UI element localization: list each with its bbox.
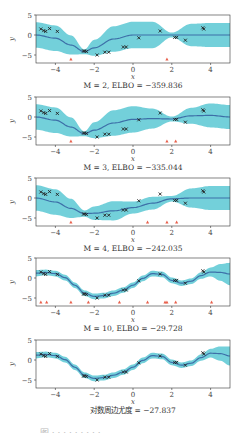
inducing-point bbox=[69, 301, 72, 304]
inducing-point bbox=[146, 221, 149, 224]
x-axis-label: x bbox=[131, 155, 135, 163]
inducing-point bbox=[210, 301, 213, 304]
subplot-title: M = 3, ELBO = −335.044 bbox=[84, 163, 183, 172]
y-axis-label: y bbox=[8, 361, 16, 367]
x-tick-label: −4 bbox=[50, 391, 61, 399]
x-axis-label: x bbox=[131, 73, 135, 81]
x-tick-label: 4 bbox=[208, 391, 213, 399]
x-tick-label: −2 bbox=[89, 309, 99, 317]
x-tick-label: 2 bbox=[170, 309, 174, 317]
x-tick-label: 2 bbox=[170, 229, 174, 237]
inducing-point bbox=[45, 301, 48, 304]
x-tick-label: 2 bbox=[170, 148, 174, 156]
x-tick-label: −2 bbox=[89, 148, 99, 156]
inducing-point bbox=[39, 301, 42, 304]
y-tick-label: 0 bbox=[28, 114, 32, 122]
x-axis-label: x bbox=[131, 398, 135, 406]
x-tick-label: −2 bbox=[89, 391, 99, 399]
y-axis-label: y bbox=[8, 36, 16, 42]
y-axis-label: y bbox=[8, 118, 16, 124]
x-tick-label: −4 bbox=[50, 66, 61, 74]
inducing-point bbox=[165, 301, 168, 304]
subplot-3: −4−2024−505xyM = 4, ELBO = −242.035 bbox=[8, 175, 230, 254]
inducing-point bbox=[165, 140, 168, 143]
x-tick-label: 4 bbox=[208, 309, 213, 317]
y-tick-label: 5 bbox=[28, 94, 32, 102]
y-tick-label: 0 bbox=[28, 275, 32, 283]
axes-frame bbox=[36, 258, 230, 306]
x-tick-label: 4 bbox=[208, 66, 213, 74]
inducing-point bbox=[87, 301, 90, 304]
inducing-point bbox=[69, 140, 72, 143]
y-tick-label: 5 bbox=[28, 12, 32, 20]
figure-caption: 图 · · · · · · · · · bbox=[40, 427, 210, 433]
x-axis-label: x bbox=[131, 316, 135, 324]
subplot-title: 对数周边尤度 = −27.837 bbox=[90, 405, 176, 415]
subplot-title: M = 4, ELBO = −242.035 bbox=[84, 244, 183, 253]
y-axis-label: y bbox=[8, 279, 16, 285]
y-tick-label: 0 bbox=[28, 32, 32, 40]
x-tick-label: −4 bbox=[50, 148, 61, 156]
inducing-point bbox=[174, 301, 177, 304]
axes-frame bbox=[36, 340, 230, 388]
subplot-title: M = 10, ELBO = −29.728 bbox=[84, 324, 183, 333]
y-tick-label: −5 bbox=[22, 295, 32, 303]
y-tick-label: −5 bbox=[22, 377, 32, 385]
x-tick-label: 2 bbox=[170, 66, 174, 74]
figure: −4−2024−505xyM = 2, ELBO = −359.836−4−20… bbox=[0, 0, 244, 433]
inducing-point bbox=[175, 221, 178, 224]
x-axis-label: x bbox=[131, 236, 135, 244]
subplot-4: −4−2024−505xyM = 10, ELBO = −29.728 bbox=[8, 255, 230, 334]
y-tick-label: 0 bbox=[28, 357, 32, 365]
confidence-band bbox=[36, 263, 230, 299]
inducing-point bbox=[69, 221, 72, 224]
confidence-band bbox=[36, 346, 230, 381]
x-tick-label: −4 bbox=[50, 309, 61, 317]
x-tick-label: −2 bbox=[89, 66, 99, 74]
inducing-point bbox=[165, 58, 168, 61]
y-tick-label: 5 bbox=[28, 255, 32, 263]
x-tick-label: −2 bbox=[89, 229, 99, 237]
x-tick-label: 2 bbox=[170, 391, 174, 399]
inducing-point bbox=[146, 301, 149, 304]
y-tick-label: −5 bbox=[22, 215, 32, 223]
confidence-band bbox=[36, 103, 230, 138]
subplot-5: −4−2024−505xy对数周边尤度 = −27.837 bbox=[8, 337, 230, 416]
inducing-point bbox=[174, 140, 177, 143]
y-tick-label: 0 bbox=[28, 195, 32, 203]
subplot-title: M = 2, ELBO = −359.836 bbox=[84, 81, 183, 90]
inducing-point bbox=[69, 58, 72, 61]
y-tick-label: 5 bbox=[28, 175, 32, 183]
y-axis-label: y bbox=[8, 199, 16, 205]
confidence-band bbox=[36, 185, 230, 220]
inducing-point bbox=[118, 301, 121, 304]
subplot-1: −4−2024−505xyM = 2, ELBO = −359.836 bbox=[8, 12, 230, 91]
inducing-point bbox=[165, 221, 168, 224]
x-tick-label: 4 bbox=[208, 229, 213, 237]
confidence-band bbox=[36, 22, 230, 56]
x-tick-label: 4 bbox=[208, 148, 213, 156]
y-tick-label: −5 bbox=[22, 52, 32, 60]
y-tick-label: 5 bbox=[28, 337, 32, 345]
subplot-2: −4−2024−505xyM = 3, ELBO = −335.044 bbox=[8, 94, 230, 173]
data-point bbox=[159, 193, 162, 196]
y-tick-label: −5 bbox=[22, 134, 32, 142]
x-tick-label: −4 bbox=[50, 229, 61, 237]
